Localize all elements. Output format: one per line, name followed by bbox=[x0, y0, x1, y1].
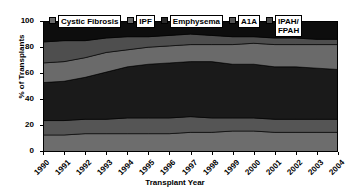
stacked-area-svg bbox=[43, 21, 338, 152]
x-tickmark-1992 bbox=[85, 152, 86, 155]
area-series-cystic-fibrosis bbox=[43, 131, 338, 152]
y-tick-20: 20 bbox=[12, 121, 34, 129]
x-tickmark-2000 bbox=[254, 152, 255, 155]
legend-label-a1a: A1A bbox=[238, 15, 260, 28]
x-tickmark-2003 bbox=[317, 152, 318, 155]
chart-legend: Cystic Fibrosis IPF Emphysema A1A IPAH/ … bbox=[49, 15, 336, 31]
y-tick-80: 80 bbox=[12, 43, 34, 51]
legend-item-cystic-fibrosis[interactable]: Cystic Fibrosis bbox=[49, 15, 121, 28]
legend-swatch-cystic-fibrosis bbox=[49, 17, 56, 24]
x-tickmark-1995 bbox=[148, 152, 149, 155]
y-tick-100: 100 bbox=[12, 17, 34, 25]
x-tickmark-1994 bbox=[127, 152, 128, 155]
legend-swatch-a1a bbox=[229, 17, 236, 24]
x-tickmark-2002 bbox=[296, 152, 297, 155]
legend-item-ipah-fpah[interactable]: IPAH/ FPAH bbox=[266, 15, 302, 37]
x-tickmark-1990 bbox=[43, 152, 44, 155]
legend-swatch-ipah-fpah bbox=[266, 17, 273, 24]
y-tick-40: 40 bbox=[12, 95, 34, 103]
x-axis-title: Transplant Year bbox=[0, 178, 350, 187]
legend-swatch-ipf bbox=[127, 17, 134, 24]
x-tickmark-1998 bbox=[212, 152, 213, 155]
x-tickmark-2004 bbox=[338, 152, 339, 155]
x-tickmark-1997 bbox=[191, 152, 192, 155]
legend-label-ipah-fpah: IPAH/ FPAH bbox=[275, 15, 302, 37]
x-tickmark-1991 bbox=[64, 152, 65, 155]
legend-item-emphysema[interactable]: Emphysema bbox=[161, 15, 223, 28]
legend-label-ipf: IPF bbox=[136, 15, 154, 28]
legend-label-emphysema: Emphysema bbox=[170, 15, 223, 28]
chart-root: % of Transplants 100 80 60 40 20 0 Cysti… bbox=[0, 0, 350, 194]
legend-item-a1a[interactable]: A1A bbox=[229, 15, 260, 28]
x-tickmark-2001 bbox=[275, 152, 276, 155]
y-tick-60: 60 bbox=[12, 69, 34, 77]
x-tickmark-1999 bbox=[233, 152, 234, 155]
legend-label-cystic-fibrosis: Cystic Fibrosis bbox=[58, 15, 121, 28]
x-tickmark-1996 bbox=[169, 152, 170, 155]
stacked-area-plot bbox=[43, 21, 338, 152]
legend-item-ipf[interactable]: IPF bbox=[127, 15, 154, 28]
legend-swatch-emphysema bbox=[161, 17, 168, 24]
x-tickmark-1993 bbox=[106, 152, 107, 155]
